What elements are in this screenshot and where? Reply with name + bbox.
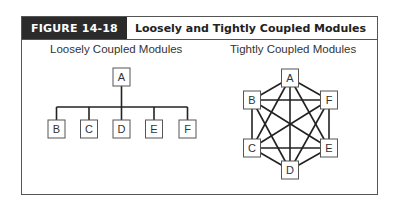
tight-node-c: C bbox=[244, 139, 261, 157]
tight-graph: A B C D E F bbox=[244, 69, 338, 179]
loose-node-a: A bbox=[113, 68, 130, 86]
tight-node-d: D bbox=[282, 161, 299, 179]
svg-text:B: B bbox=[248, 94, 255, 106]
loose-tree: A B C D E F bbox=[48, 68, 196, 138]
loose-node-f: F bbox=[179, 120, 196, 138]
svg-text:C: C bbox=[248, 142, 256, 154]
svg-text:D: D bbox=[286, 164, 294, 176]
tight-node-e: E bbox=[321, 139, 338, 157]
loose-node-b: B bbox=[48, 120, 65, 138]
tight-node-f: F bbox=[321, 91, 338, 109]
loose-node-e: E bbox=[146, 120, 163, 138]
loose-node-c: C bbox=[81, 120, 98, 138]
svg-text:D: D bbox=[118, 123, 126, 135]
tight-node-a: A bbox=[282, 69, 299, 87]
loose-node-d: D bbox=[113, 120, 130, 138]
diagram-canvas: A B C D E F A B C D E F bbox=[0, 0, 397, 208]
tight-node-b: B bbox=[244, 91, 261, 109]
svg-text:E: E bbox=[325, 142, 332, 154]
svg-text:F: F bbox=[184, 123, 191, 135]
svg-text:A: A bbox=[286, 72, 294, 84]
svg-text:B: B bbox=[53, 123, 60, 135]
svg-text:F: F bbox=[326, 94, 333, 106]
svg-text:E: E bbox=[150, 123, 157, 135]
svg-text:C: C bbox=[85, 123, 93, 135]
svg-text:A: A bbox=[118, 71, 126, 83]
